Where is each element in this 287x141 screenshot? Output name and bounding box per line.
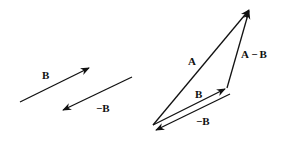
label-b-right: B bbox=[195, 88, 203, 100]
label-b-left: B bbox=[42, 69, 50, 81]
vector-neg-b-right bbox=[156, 94, 230, 130]
label-neg-b-left: −B bbox=[96, 102, 110, 114]
vector-b-right bbox=[153, 89, 225, 125]
label-a-minus-b: A − B bbox=[241, 48, 268, 60]
label-neg-b-right: −B bbox=[196, 115, 210, 127]
vector-b-left bbox=[20, 68, 89, 102]
vector-diagram: B −B A B A − B −B bbox=[0, 0, 287, 141]
label-a: A bbox=[188, 55, 196, 67]
